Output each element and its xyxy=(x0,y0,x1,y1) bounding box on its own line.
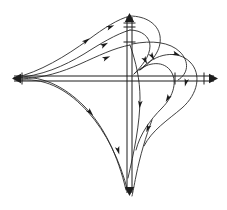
figure-background xyxy=(0,0,227,210)
figure-root: Phase portrait with double-ruled coordin… xyxy=(0,0,227,210)
phase-portrait-diagram: Phase portrait with double-ruled coordin… xyxy=(0,0,227,210)
